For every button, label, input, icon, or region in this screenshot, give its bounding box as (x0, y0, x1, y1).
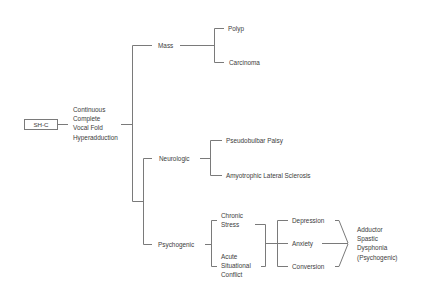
category-psychogenic: Psychogenic (158, 240, 194, 249)
category-mass: Mass (158, 41, 173, 50)
outcome-line: (Psychogenic) (357, 253, 398, 262)
state-depression: Depression (292, 216, 324, 225)
symptom-line: Hyperadduction (73, 133, 118, 142)
cause-line: Stress (221, 220, 243, 229)
category-neurologic: Neurologic (159, 154, 190, 163)
mass-child-carcinoma: Carcinoma (229, 58, 260, 67)
outcome-line: Dysphonia (357, 243, 398, 252)
symptom-node: Continuous Complete Vocal Fold Hyperaddu… (73, 105, 118, 142)
symptom-line: Continuous (73, 105, 118, 114)
neurologic-child-pseudobulbar: Pseudobulbar Palsy (226, 136, 283, 145)
connector-depression-converge (335, 221, 348, 244)
root-node-box: SH-C (24, 119, 58, 130)
symptom-line: Complete (73, 114, 118, 123)
state-conversion: Conversion (292, 262, 324, 271)
cause-chronic-stress: Chronic Stress (221, 211, 243, 229)
mass-child-polyp: Polyp (228, 24, 244, 33)
symptom-line: Vocal Fold (73, 123, 118, 132)
cause-line: Conflict (221, 270, 251, 279)
outcome-line: Adductor (357, 225, 398, 234)
outcome-adductor-spastic-dysphonia: Adductor Spastic Dysphonia (Psychogenic) (357, 225, 398, 262)
neurologic-child-als: Amyotrophic Lateral Sclerosis (226, 171, 311, 180)
outcome-line: Spastic (357, 234, 398, 243)
cause-line: Chronic (221, 211, 243, 220)
connector-conversion-converge (335, 244, 348, 267)
cause-line: Acute (221, 252, 251, 261)
cause-line: Situational (221, 261, 251, 270)
root-node-label: SH-C (33, 121, 48, 128)
state-anxiety: Anxiety (292, 239, 313, 248)
cause-acute-conflict: Acute Situational Conflict (221, 252, 251, 280)
